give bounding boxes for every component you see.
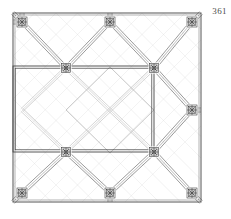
rib-edge-0: [152, 21, 190, 67]
rib-edge-1: [67, 23, 111, 69]
rosette-bottom-left: [16, 187, 28, 199]
plate-number: 361: [212, 6, 227, 16]
rosette-inner-upper-left: [60, 62, 71, 73]
frame-mask-1: [0, 202, 231, 218]
rib-edge-1: [109, 151, 153, 192]
rib-edge-0: [67, 151, 111, 192]
rib-edge-0: [23, 153, 67, 194]
rosette-core: [21, 192, 23, 194]
rosette-core: [191, 109, 193, 111]
rib-edge-1: [23, 21, 67, 67]
rosette-core: [153, 67, 155, 69]
rib-edge-0: [111, 153, 155, 194]
rib-edge-1: [65, 153, 109, 194]
ghost-line: [13, 105, 201, 219]
rosette-top-left: [16, 16, 28, 28]
rib-edge-0: [155, 151, 193, 192]
rib-centre: [110, 152, 154, 193]
frame-mask-2: [0, 0, 13, 218]
rosette-inner-lower-right: [148, 146, 159, 157]
rib-centre: [22, 22, 66, 68]
rib-edge-1: [155, 111, 193, 153]
rosette-core: [109, 192, 111, 194]
rib-edge-0: [21, 23, 65, 69]
rosette-top-center: [104, 16, 116, 28]
rosette-core: [65, 151, 67, 153]
rib-centre: [22, 110, 66, 152]
rosette-core: [153, 151, 155, 153]
vault-plan-drawing: [0, 0, 231, 218]
rib-centre: [22, 152, 66, 193]
panel-rule-0: [13, 66, 154, 152]
rib-centre: [154, 68, 192, 110]
rib-centre: [154, 22, 192, 68]
rib-edge-0: [23, 69, 67, 111]
emphasised-bay-rectangle: [13, 66, 154, 152]
rosette-top-right: [186, 16, 198, 28]
rib-edge-0: [155, 67, 193, 109]
rosette-core: [65, 67, 67, 69]
rib-centre: [154, 110, 192, 152]
rib-centre: [66, 152, 110, 193]
frame-mask-0: [0, 0, 231, 13]
rib-edge-1: [23, 109, 67, 151]
rib-centre: [22, 68, 66, 110]
construction-lattice: [13, 0, 201, 218]
rosette-bottom-right: [186, 187, 198, 199]
rib-edge-0: [21, 111, 65, 153]
rib-edge-1: [153, 153, 191, 194]
rib-edge-0: [65, 21, 109, 67]
plate-illustration: [0, 0, 231, 218]
frame-mask-3: [201, 0, 231, 218]
rosette-core: [21, 21, 23, 23]
faint-rib-0: [21, 67, 67, 111]
faint-rib-1: [21, 109, 67, 153]
rosette-core: [109, 21, 111, 23]
rosette-inner-lower-left: [60, 146, 71, 157]
rib-edge-1: [153, 69, 191, 111]
rosette-inner-upper-right: [148, 62, 159, 73]
rosette-core: [191, 21, 193, 23]
rib-centre: [66, 22, 110, 68]
rib-edge-1: [156, 23, 194, 69]
rosette-bottom-center: [104, 187, 116, 199]
rosette-mid-right: [186, 104, 198, 116]
rib-edge-1: [21, 67, 65, 109]
rosette-core: [191, 192, 193, 194]
